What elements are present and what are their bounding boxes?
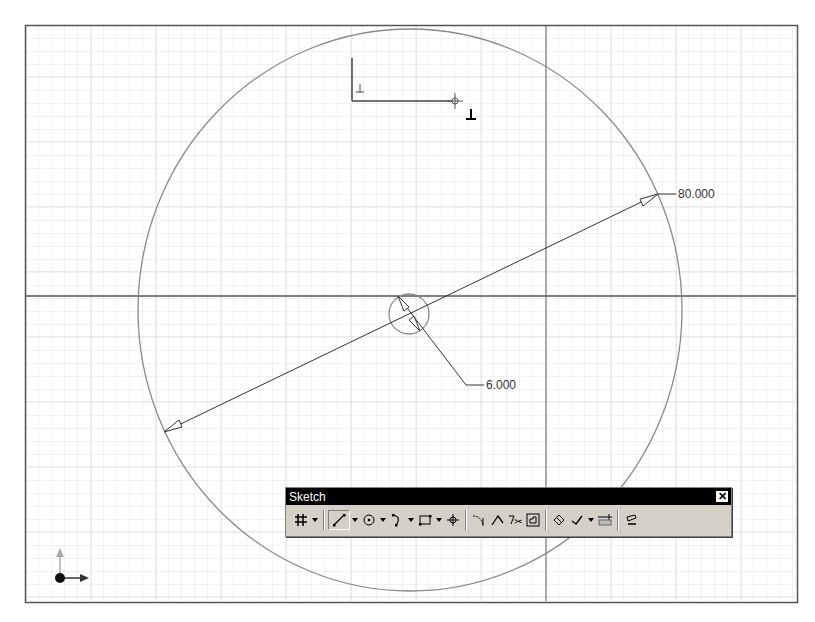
separator [617, 510, 619, 530]
eraser-icon[interactable] [622, 510, 640, 530]
arc-icon[interactable] [388, 510, 406, 530]
dimension-icon[interactable] [596, 510, 614, 530]
constraint-icon[interactable] [550, 510, 568, 530]
arc-dropdown[interactable] [406, 510, 416, 530]
close-icon[interactable]: ✕ [716, 491, 728, 502]
separator [465, 510, 467, 530]
separator [545, 510, 547, 530]
grid-icon[interactable] [292, 510, 310, 530]
point-icon[interactable] [444, 510, 462, 530]
toolbar-titlebar[interactable]: Sketch ✕ [286, 488, 731, 505]
fillet-icon[interactable] [470, 510, 488, 530]
toolbar-buttons: ✂ [286, 505, 731, 535]
constraint-dropdown[interactable] [586, 510, 596, 530]
inner-diameter-label[interactable]: 6.000 [486, 378, 516, 392]
svg-text:✂: ✂ [514, 516, 522, 527]
circle-dropdown[interactable] [378, 510, 388, 530]
rectangle-dropdown[interactable] [434, 510, 444, 530]
circle-icon[interactable] [360, 510, 378, 530]
offset-icon[interactable] [524, 510, 542, 530]
toolbar-title: Sketch [289, 490, 326, 504]
separator [323, 510, 325, 530]
outer-diameter-label[interactable]: 80.000 [678, 187, 715, 201]
sketch-toolbar: Sketch ✕ ✂ [285, 487, 732, 537]
rectangle-icon[interactable] [416, 510, 434, 530]
line-icon[interactable] [328, 510, 350, 530]
check-constraint-icon[interactable] [568, 510, 586, 530]
trim-icon[interactable]: ✂ [506, 510, 524, 530]
line-dropdown[interactable] [350, 510, 360, 530]
extend-icon[interactable] [488, 510, 506, 530]
grid-dropdown[interactable] [310, 510, 320, 530]
